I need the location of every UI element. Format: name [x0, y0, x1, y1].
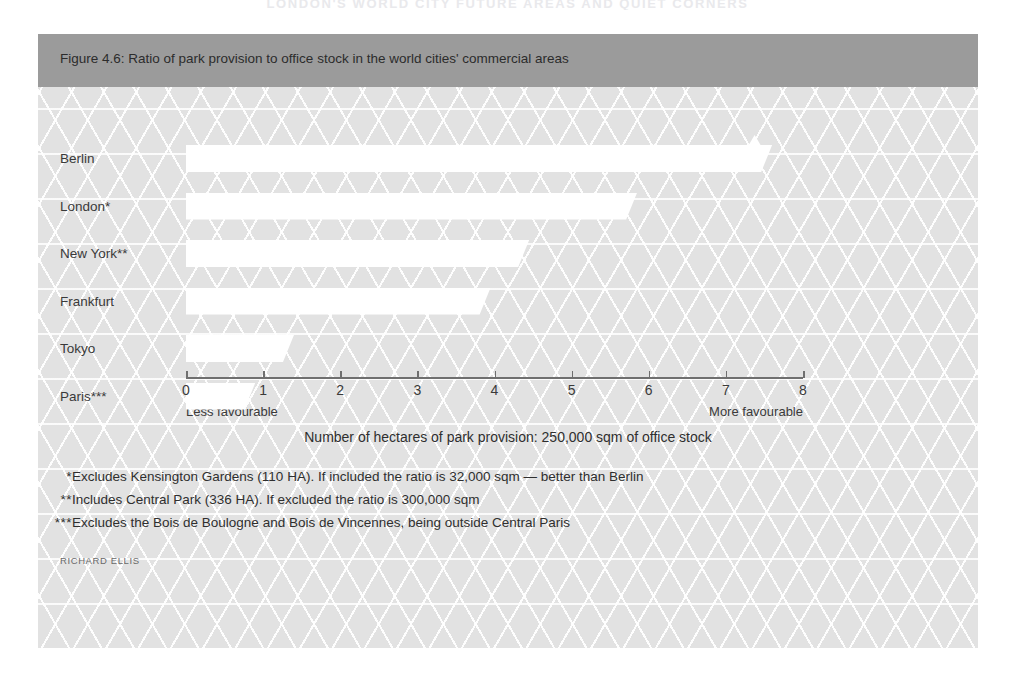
bar [186, 288, 491, 315]
footnote: **Includes Central Park (336 HA). If exc… [38, 492, 918, 507]
category-label: New York** [60, 240, 190, 267]
bar-chart: Less favourable More favourable Number o… [38, 87, 978, 648]
x-axis-label: Number of hectares of park provision: 25… [38, 429, 978, 445]
chart-row: New York** [60, 240, 865, 267]
x-axis-tick-label: 4 [475, 382, 515, 398]
x-axis-tick [572, 371, 574, 378]
x-axis-tick-label: 1 [243, 382, 283, 398]
figure-title-bar: Figure 4.6: Ratio of park provision to o… [38, 34, 978, 87]
x-axis-tick [417, 371, 419, 378]
chart-row: London* [60, 193, 865, 220]
x-axis-tick-label: 6 [629, 382, 669, 398]
x-axis-tick [495, 371, 497, 378]
x-axis-tick-label: 7 [706, 382, 746, 398]
x-axis-tick-label: 0 [166, 382, 206, 398]
footnote-text: Includes Central Park (336 HA). If exclu… [72, 492, 479, 507]
x-axis-tick [340, 371, 342, 378]
figure-title: Figure 4.6: Ratio of park provision to o… [60, 51, 569, 66]
x-axis-tick-label: 5 [552, 382, 592, 398]
footnote: ***Excludes the Bois de Boulogne and Boi… [38, 515, 918, 530]
chart-row: Berlin [60, 145, 865, 172]
x-axis-tick [803, 371, 805, 378]
figure-source: RICHARD ELLIS [60, 555, 140, 566]
x-axis-tick [726, 371, 728, 378]
bar [186, 240, 529, 267]
footnote-marker: *** [38, 515, 72, 530]
x-axis-tick-label: 8 [783, 382, 823, 398]
footnote-text: Excludes the Bois de Boulogne and Bois d… [72, 515, 570, 530]
category-label: London* [60, 193, 190, 220]
x-axis-tick [186, 371, 188, 378]
x-axis-tick [649, 371, 651, 378]
chart-row: Frankfurt [60, 288, 865, 315]
x-axis-tick [263, 371, 265, 378]
figure-panel: Figure 4.6: Ratio of park provision to o… [38, 34, 978, 648]
category-label: Frankfurt [60, 288, 190, 315]
chart-row: Tokyo [60, 335, 865, 362]
category-label: Tokyo [60, 335, 190, 362]
x-axis-tick-label: 2 [320, 382, 360, 398]
footnote-marker: * [38, 469, 72, 484]
running-head: LONDON'S WORLD CITY FUTURE AREAS AND QUI… [0, 0, 1015, 10]
footnote-text: Excludes Kensington Gardens (110 HA). If… [72, 469, 644, 484]
x-axis-tick-label: 3 [397, 382, 437, 398]
bar [186, 335, 294, 362]
bar [186, 145, 772, 172]
footnote: *Excludes Kensington Gardens (110 HA). I… [38, 469, 918, 484]
bar-notch [748, 135, 761, 146]
category-label: Berlin [60, 145, 190, 172]
bar [186, 193, 637, 220]
footnote-marker: ** [38, 492, 72, 507]
